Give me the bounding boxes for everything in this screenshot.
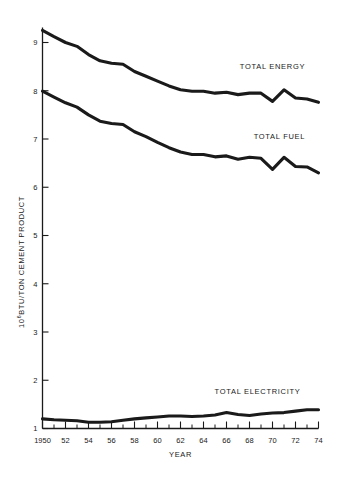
x-axis-title: YEAR: [169, 450, 192, 459]
y-tick-label: 9: [33, 38, 37, 47]
tick-marks: [43, 43, 319, 429]
x-tick-label: 72: [291, 436, 299, 445]
y-axis-title: 106BTU/TON CEMENT PRODUCT: [16, 196, 26, 328]
x-tick-label: 54: [84, 436, 92, 445]
y-tick-label: 1: [33, 424, 37, 433]
x-tick-label: 62: [176, 436, 184, 445]
series-line-total-electricity: [43, 410, 319, 423]
series-label-total-electricity: TOTAL ELECTRICITY: [215, 387, 301, 396]
y-tick-label: 8: [33, 87, 37, 96]
y-tick-label: 4: [33, 280, 37, 289]
x-tick-label: 64: [199, 436, 207, 445]
y-axis-title-rest: BTU/TON CEMENT PRODUCT: [17, 196, 26, 315]
x-tick-label: 60: [153, 436, 161, 445]
x-tick-label: 74: [314, 436, 322, 445]
y-tick-label: 7: [33, 135, 37, 144]
y-axis-title-base: 10: [17, 318, 26, 328]
y-tick-label: 5: [33, 231, 37, 240]
chart-figure: 123456789 1950525456586062646668707274 T…: [0, 0, 354, 482]
x-tick-label: 70: [268, 436, 276, 445]
line-chart: 123456789 1950525456586062646668707274 T…: [0, 0, 354, 482]
y-tick-label: 2: [33, 376, 37, 385]
series-annotations: TOTAL ENERGYTOTAL FUELTOTAL ELECTRICITY: [215, 62, 306, 396]
x-tick-label: 68: [245, 436, 253, 445]
y-tick-label: 6: [33, 183, 37, 192]
axes: [43, 28, 319, 429]
data-series: [43, 30, 319, 422]
x-axis-tick-labels: 1950525456586062646668707274: [34, 436, 323, 445]
y-axis-tick-labels: 123456789: [33, 38, 37, 433]
x-tick-label: 56: [107, 436, 115, 445]
x-tick-label: 58: [130, 436, 138, 445]
x-tick-label: 66: [222, 436, 230, 445]
y-tick-label: 3: [33, 328, 37, 337]
x-tick-label: 52: [61, 436, 69, 445]
series-label-total-fuel: TOTAL FUEL: [254, 132, 305, 141]
x-tick-label: 1950: [34, 436, 51, 445]
series-label-total-energy: TOTAL ENERGY: [240, 62, 305, 71]
